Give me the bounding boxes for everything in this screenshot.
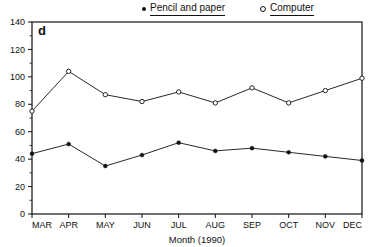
data-point (250, 86, 254, 90)
x-tick-label: SEP (243, 220, 261, 230)
data-point (286, 101, 290, 105)
legend-item-computer: Computer (260, 2, 314, 16)
x-tick-label: DEC (343, 220, 363, 230)
x-tick-label: AUG (206, 220, 226, 230)
series-line (32, 143, 362, 166)
data-point (30, 109, 34, 113)
data-point (287, 150, 291, 154)
x-tick-label: MAY (96, 220, 115, 230)
series-layer (30, 69, 364, 168)
filled-circle-icon (142, 7, 146, 11)
series-computer (30, 69, 364, 113)
series-line (32, 71, 362, 111)
data-point (30, 152, 34, 156)
data-point (103, 164, 107, 168)
data-point (67, 142, 71, 146)
y-tick-label: 0 (20, 209, 25, 219)
x-tick-label: JUN (133, 220, 151, 230)
data-point (177, 141, 181, 145)
x-tick-label: OCT (279, 220, 299, 230)
data-point (140, 153, 144, 157)
plot-frame (32, 22, 362, 214)
series-pencil-and-paper (30, 141, 364, 168)
data-point (250, 146, 254, 150)
chart-legend: Pencil and paper Computer (0, 0, 376, 18)
y-tick-label: 80 (15, 99, 25, 109)
y-tick-label: 40 (15, 154, 25, 164)
labels-layer: 020406080100120140MARAPRMAYJUNJULAUGSEPO… (10, 17, 363, 245)
data-point (360, 159, 364, 163)
data-point (213, 149, 217, 153)
open-circle-icon (260, 6, 266, 12)
data-point (323, 155, 327, 159)
legend-label: Pencil and paper (150, 2, 225, 16)
y-tick-label: 100 (10, 72, 25, 82)
data-point (176, 90, 180, 94)
x-axis-title: Month (1990) (169, 234, 226, 245)
x-tick-label: APR (59, 220, 78, 230)
y-tick-label: 20 (15, 182, 25, 192)
data-point (103, 92, 107, 96)
y-tick-label: 140 (10, 17, 25, 27)
data-point (360, 76, 364, 80)
data-point (66, 69, 70, 73)
legend-label: Computer (270, 2, 314, 16)
y-tick-label: 60 (15, 127, 25, 137)
plot-area: 020406080100120140MARAPRMAYJUNJULAUGSEPO… (0, 0, 376, 247)
legend-item-pencil-and-paper: Pencil and paper (142, 2, 225, 16)
data-point (213, 101, 217, 105)
x-tick-label: MAR (32, 220, 53, 230)
x-tick-label: NOV (316, 220, 336, 230)
chart-figure: Pencil and paper Computer 02040608010012… (0, 0, 376, 247)
axes-layer (28, 22, 362, 218)
panel-letter: d (38, 23, 46, 38)
x-tick-label: JUL (171, 220, 187, 230)
data-point (323, 88, 327, 92)
y-tick-label: 120 (10, 45, 25, 55)
data-point (140, 99, 144, 103)
